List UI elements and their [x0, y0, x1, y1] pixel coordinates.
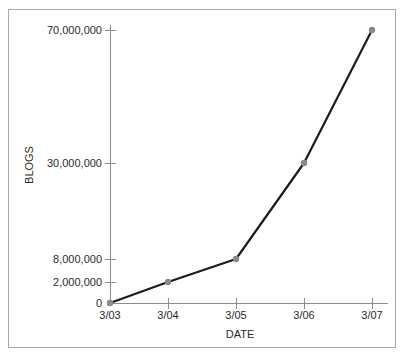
data-point-marker — [233, 256, 239, 262]
y-tick-label-8000000: 8,000,000 — [22, 253, 102, 265]
x-tick-label-3-03: 3/03 — [85, 309, 135, 321]
y-axis-title: BLOGS — [23, 135, 35, 195]
data-point-markers — [107, 27, 375, 306]
data-point-marker — [369, 27, 375, 33]
data-line-series-blogs — [110, 30, 372, 303]
y-tick-label-0: 0 — [22, 297, 102, 309]
data-point-marker — [107, 300, 113, 306]
data-point-marker — [165, 279, 171, 285]
x-tick-label-3-05: 3/05 — [211, 309, 261, 321]
x-axis-title: DATE — [205, 328, 275, 340]
x-tick-label-3-06: 3/06 — [279, 309, 329, 321]
x-tick-label-3-07: 3/07 — [347, 309, 397, 321]
x-tick-label-3-04: 3/04 — [143, 309, 193, 321]
y-tick-label-70000000: 70,000,000 — [22, 24, 102, 36]
data-point-marker — [301, 160, 307, 166]
y-tick-label-2000000: 2,000,000 — [22, 276, 102, 288]
